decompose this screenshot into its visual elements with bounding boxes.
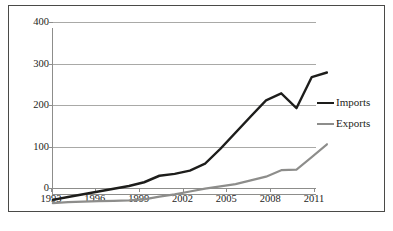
legend-swatch (317, 123, 334, 125)
series-line-imports (53, 72, 327, 199)
series-line-exports (53, 144, 327, 203)
legend-label: Imports (336, 94, 370, 111)
scan-artifact (159, 225, 299, 231)
chart-figure: 0100200300400 19931996199920022005200820… (0, 0, 393, 231)
legend-swatch (317, 102, 334, 104)
legend-item: Imports (317, 94, 387, 115)
legend-label: Exports (336, 115, 370, 132)
chart-legend: ImportsExports (317, 94, 387, 136)
chart-frame: 0100200300400 19931996199920022005200820… (8, 5, 385, 212)
legend-item: Exports (317, 115, 387, 136)
